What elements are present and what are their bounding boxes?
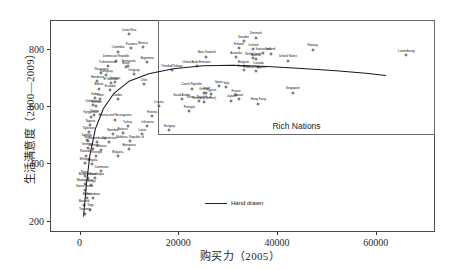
scatter-point-label: Sierra Leone — [76, 185, 93, 188]
scatter-point — [108, 140, 111, 143]
scatter-point — [84, 212, 87, 215]
scatter-point-label: Latvia — [138, 129, 146, 132]
scatter-point-label: Rwanda — [80, 150, 91, 153]
scatter-point-label: Albania — [96, 145, 106, 148]
scatter-point — [84, 162, 87, 165]
legend-label: Hand drawn — [231, 200, 263, 206]
scatter-point-label: Bolivia — [94, 83, 103, 86]
scatter-point — [117, 50, 120, 53]
scatter-point — [109, 88, 112, 91]
scatter-point-label: Ecuador — [105, 85, 116, 88]
x-axis-label: 购买力（2005） — [150, 247, 330, 263]
legend-line-swatch — [205, 203, 227, 204]
scatter-point-label: Jordan — [113, 94, 122, 97]
scatter-point — [128, 139, 131, 142]
scatter-point-label: Chile — [140, 79, 147, 82]
scatter-point-label: Dominican Republic — [103, 55, 130, 58]
scatter-point — [125, 65, 128, 68]
scatter-point-label: Paraguay — [100, 70, 113, 73]
chart-root: 生活满意度（2000—2009） 购买力（2005） 200400600800 … — [0, 0, 453, 270]
scatter-point-label: Kyrgyzstan — [84, 111, 99, 114]
scatter-point-label: Tanzania — [79, 208, 91, 211]
scatter-point — [114, 118, 117, 121]
scatter-point-label: Bulgaria — [112, 151, 123, 154]
scatter-point-label: Brazil — [122, 62, 129, 65]
scatter-point — [89, 115, 92, 118]
x-tick-label: 0 — [77, 237, 82, 248]
rich-nations-label: Rich Nations — [158, 121, 435, 131]
rich-nations-box — [158, 20, 435, 135]
scatter-point-label: Estonia — [147, 111, 157, 114]
scatter-point — [91, 197, 94, 200]
y-tick-label: 800 — [14, 43, 44, 54]
y-tick-label: 200 — [14, 215, 44, 226]
scatter-point — [127, 148, 130, 151]
scatter-point — [116, 98, 119, 101]
scatter-point-label: Honduras — [91, 76, 104, 79]
x-tick-label: 40000 — [265, 237, 290, 248]
scatter-point-label: Moldova, Republic of — [116, 136, 144, 139]
y-tick-label: 400 — [14, 158, 44, 169]
scatter-point-label: Bosnia and Herzegovina — [99, 114, 132, 117]
scatter-point-label: Namibia — [107, 129, 118, 132]
scatter-point — [141, 46, 144, 49]
scatter-point-label: Belarus — [117, 128, 127, 131]
legend: Hand drawn — [205, 200, 263, 206]
y-tick-label: 600 — [14, 100, 44, 111]
scatter-point-label: Argentina — [141, 57, 154, 60]
scatter-point — [146, 60, 149, 63]
scatter-point — [127, 32, 130, 35]
scatter-point — [132, 73, 135, 76]
scatter-point-label: Georgia — [91, 151, 102, 154]
scatter-point-label: Cameroon — [94, 166, 108, 169]
scatter-point-label: Tajikistan — [82, 127, 94, 130]
scatter-point-label: Uruguay — [128, 69, 139, 72]
scatter-point — [142, 83, 145, 86]
x-tick-label: 20000 — [166, 237, 191, 248]
scatter-point-label: Angola — [88, 159, 97, 162]
scatter-point — [130, 47, 133, 50]
scatter-point — [83, 203, 86, 206]
scatter-point — [97, 87, 100, 90]
scatter-point-label: El Salvador — [104, 78, 119, 81]
scatter-point-label: Costa Rica — [122, 29, 137, 32]
x-tick-label: 60000 — [363, 237, 388, 248]
scatter-point-label: Laos — [97, 94, 104, 97]
scatter-point-label: Mexico — [138, 42, 148, 45]
scatter-point-label: Nigeria — [86, 120, 95, 123]
scatter-point-label: Turkmenistan — [99, 61, 117, 64]
scatter-point — [151, 115, 154, 118]
scatter-point-label: Colombia — [112, 46, 125, 49]
scatter-point — [95, 105, 98, 108]
scatter-point-label: Mozambique — [87, 173, 104, 176]
scatter-point-label: Botswana — [122, 144, 135, 147]
scatter-point-label: Zimbabwe — [86, 193, 100, 196]
scatter-point-label: Vietnam — [91, 101, 102, 104]
scatter-point-label: Turkey — [123, 121, 132, 124]
scatter-point-label: Uzbekistan — [102, 137, 117, 140]
scatter-point-label: Panama — [126, 43, 137, 46]
scatter-point — [116, 155, 119, 158]
scatter-point-label: Lithuania — [141, 121, 153, 124]
